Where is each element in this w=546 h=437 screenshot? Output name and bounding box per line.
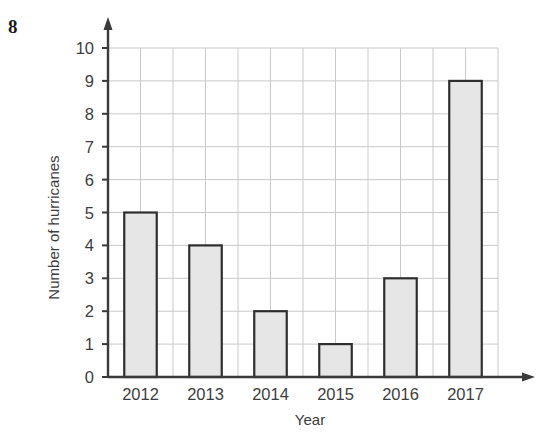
- y-tick-label: 0: [60, 369, 94, 386]
- x-tick-label-2016: 2016: [368, 386, 434, 403]
- y-tick-label: 10: [60, 40, 94, 57]
- y-tick-label: 2: [60, 303, 94, 320]
- y-tick-label: 1: [60, 336, 94, 353]
- bar-2014: [254, 311, 287, 377]
- y-tick-label: 3: [60, 270, 94, 287]
- x-tick-label-2014: 2014: [238, 386, 304, 403]
- y-tick-label: 4: [60, 237, 94, 254]
- x-axis-title: Year: [247, 411, 373, 428]
- y-axis-title: Number of hurricanes: [45, 138, 62, 318]
- y-tick-label: 8: [60, 106, 94, 123]
- x-tick-label-2017: 2017: [433, 386, 499, 403]
- y-tick-label: 9: [60, 73, 94, 90]
- y-tick-label: 6: [60, 172, 94, 189]
- x-axis-arrowhead: [522, 373, 535, 382]
- bar-chart-figure: 012345678910 201220132014201520162017 Nu…: [0, 0, 546, 437]
- y-axis-arrowhead: [104, 17, 113, 30]
- y-tick-label: 5: [60, 205, 94, 222]
- bar-2016: [384, 278, 417, 377]
- bar-2013: [189, 245, 222, 377]
- bar-2012: [124, 213, 157, 378]
- gridlines: [108, 48, 498, 377]
- bar-2015: [319, 344, 352, 377]
- y-tick-label: 7: [60, 139, 94, 156]
- x-tick-label-2015: 2015: [303, 386, 369, 403]
- x-tick-label-2013: 2013: [173, 386, 239, 403]
- bar-2017: [449, 81, 482, 377]
- x-tick-label-2012: 2012: [108, 386, 174, 403]
